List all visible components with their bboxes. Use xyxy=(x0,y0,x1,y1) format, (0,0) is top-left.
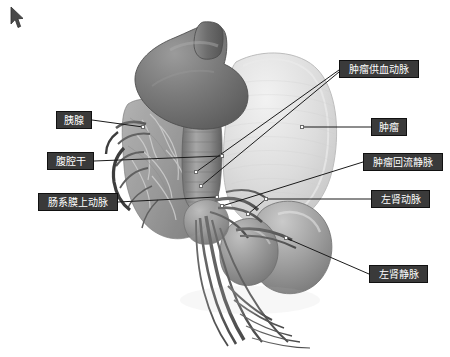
anchor-point-pancreas-0[interactable] xyxy=(141,125,145,129)
label-left-renal-artery[interactable]: 左肾动脉 xyxy=(371,190,430,208)
leader-line-superior-mesenteric-artery-0 xyxy=(118,197,217,202)
leader-line-pancreas-0 xyxy=(92,120,143,127)
label-tumor[interactable]: 肿瘤 xyxy=(371,118,407,136)
leader-line-left-renal-artery-1 xyxy=(248,199,266,214)
anchor-point-left-renal-artery-1[interactable] xyxy=(246,212,250,216)
leader-line-left-renal-vein-0 xyxy=(286,238,369,274)
label-superior-mesenteric-artery[interactable]: 肠系膜上动脉 xyxy=(38,193,118,211)
annotation-layer[interactable]: 胰腺腹腔干肠系膜上动脉肿瘤供血动脉肿瘤肿瘤回流静脉左肾动脉左肾静脉 xyxy=(0,0,450,357)
label-pancreas[interactable]: 胰腺 xyxy=(56,111,92,129)
label-celiac-trunk[interactable]: 腹腔干 xyxy=(47,152,94,170)
label-tumor-feeding-artery[interactable]: 肿瘤供血动脉 xyxy=(339,60,419,78)
mouse-pointer-icon xyxy=(9,6,25,30)
anchor-point-superior-mesenteric-artery-0[interactable] xyxy=(215,195,219,199)
leader-lines xyxy=(0,0,450,357)
viewer-canvas[interactable]: 胰腺腹腔干肠系膜上动脉肿瘤供血动脉肿瘤肿瘤回流静脉左肾动脉左肾静脉 xyxy=(0,0,450,357)
leader-line-tumor-draining-vein-0 xyxy=(222,162,363,206)
label-left-renal-vein[interactable]: 左肾静脉 xyxy=(369,265,428,283)
anchor-point-left-renal-artery-0[interactable] xyxy=(264,197,268,201)
anchor-point-tumor-draining-vein-0[interactable] xyxy=(220,204,224,208)
anchor-point-left-renal-vein-0[interactable] xyxy=(284,236,288,240)
anchor-point-tumor-0[interactable] xyxy=(300,125,304,129)
leader-line-celiac-trunk-0 xyxy=(94,156,222,161)
anchor-point-tumor-feeding-artery-1[interactable] xyxy=(199,184,203,188)
leader-line-tumor-feeding-artery-1 xyxy=(201,72,339,186)
label-tumor-draining-vein[interactable]: 肿瘤回流静脉 xyxy=(363,153,443,171)
anchor-point-celiac-trunk-0[interactable] xyxy=(220,154,224,158)
anchor-point-tumor-feeding-artery-0[interactable] xyxy=(194,170,198,174)
leader-line-tumor-feeding-artery-0 xyxy=(196,70,339,172)
